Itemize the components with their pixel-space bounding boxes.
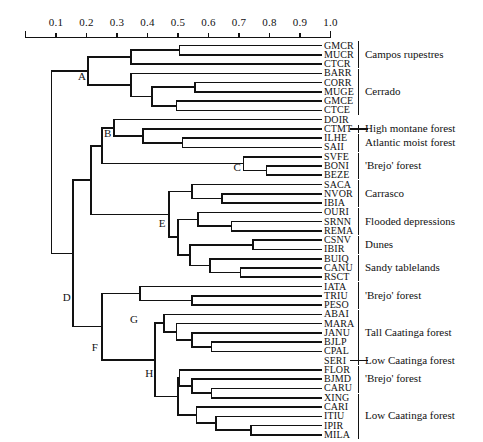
group-label: High montane forest (365, 123, 455, 134)
axis-tick-label: 1.0 (316, 16, 346, 28)
node-label-a: A (78, 71, 86, 82)
axis-tick-label: 0.3 (102, 16, 132, 28)
group-label: Tall Caatinga forest (365, 327, 452, 338)
group-label: Cerrado (365, 86, 400, 97)
group-label: Atlantic moist forest (365, 137, 455, 148)
node-label-b: B (104, 128, 111, 139)
group-label: Low Caatinga forest (365, 355, 455, 366)
group-label: Dunes (365, 239, 393, 250)
node-label-c: C (234, 162, 241, 173)
node-label-h: H (145, 368, 153, 379)
axis-tick-label: 0.7 (224, 16, 254, 28)
node-label-f: F (92, 342, 98, 353)
group-label: 'Brejo' forest (365, 160, 421, 171)
group-label: 'Brejo' forest (365, 290, 421, 301)
leaf-label: MILA (324, 430, 350, 440)
axis-tick-label: 0.9 (285, 16, 315, 28)
axis-tick-label: 0.6 (194, 16, 224, 28)
node-label-d: D (63, 292, 71, 303)
group-label: Sandy tablelands (365, 262, 440, 273)
group-label: Flooded depressions (365, 216, 455, 227)
axis-tick-label: 0.8 (255, 16, 285, 28)
axis-tick-label: 0.4 (133, 16, 163, 28)
axis-tick-label: 0.5 (163, 16, 193, 28)
dendrogram-figure: 0.10.20.30.40.50.60.70.80.91.0GMCRMUCRCT… (0, 0, 483, 442)
group-label: Low Caatinga forest (365, 410, 455, 421)
axis-tick-label: 0.1 (41, 16, 71, 28)
node-label-e: E (159, 218, 166, 229)
axis-tick-label: 0.2 (72, 16, 102, 28)
group-label: Campos rupestres (365, 49, 444, 60)
group-label: 'Brejo' forest (365, 373, 421, 384)
node-label-g: G (130, 314, 138, 325)
group-label: Carrasco (365, 188, 404, 199)
